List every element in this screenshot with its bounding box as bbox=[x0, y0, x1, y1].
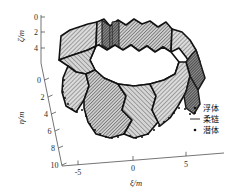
axis-xi bbox=[62, 152, 224, 166]
ytick-5: 10 bbox=[51, 161, 59, 170]
axis-zeta bbox=[41, 15, 45, 63]
ztick-2: 4 bbox=[34, 44, 38, 53]
ytick-4: 8 bbox=[51, 144, 55, 153]
ytick-1: 2 bbox=[41, 93, 45, 102]
figure-3d-plot: 0 2 4 0 2 4 6 8 10 -5 0 5 ζ/m η/m ξ/m 浮体 bbox=[0, 0, 239, 195]
plot-canvas: 0 2 4 0 2 4 6 8 10 -5 0 5 ζ/m η/m ξ/m 浮体 bbox=[0, 0, 239, 195]
legend: 浮体 柔链 潜体 bbox=[190, 103, 219, 135]
legend-dot-icon-2 bbox=[194, 129, 197, 132]
ytick-3: 6 bbox=[48, 127, 52, 136]
legend-label-flexible-chain: 柔链 bbox=[203, 114, 219, 124]
legend-item-submerged-body[interactable]: 潜体 bbox=[194, 125, 219, 135]
xi-axis-label: ξ/m bbox=[130, 178, 142, 188]
xi-tick-labels: -5 0 5 bbox=[75, 160, 188, 177]
legend-dot-icon bbox=[194, 107, 197, 110]
legend-item-flexible-chain[interactable]: 柔链 bbox=[190, 114, 219, 124]
legend-label-submerged-body: 潜体 bbox=[203, 125, 219, 135]
ztick-0: 0 bbox=[34, 13, 38, 22]
eta-tick-labels: 0 2 4 6 8 10 bbox=[37, 76, 59, 170]
eta-axis-label: η/m bbox=[16, 112, 26, 125]
xtick-1: 0 bbox=[131, 164, 135, 173]
xtick-0: -5 bbox=[75, 168, 82, 177]
ytick-2: 4 bbox=[44, 110, 48, 119]
ytick-0: 0 bbox=[37, 76, 41, 85]
xtick-2: 5 bbox=[184, 160, 188, 169]
ztick-1: 2 bbox=[34, 28, 38, 37]
legend-label-floating-body: 浮体 bbox=[203, 103, 219, 113]
zeta-axis-label: ζ/m bbox=[16, 30, 26, 42]
zeta-tick-labels: 0 2 4 bbox=[34, 13, 38, 53]
